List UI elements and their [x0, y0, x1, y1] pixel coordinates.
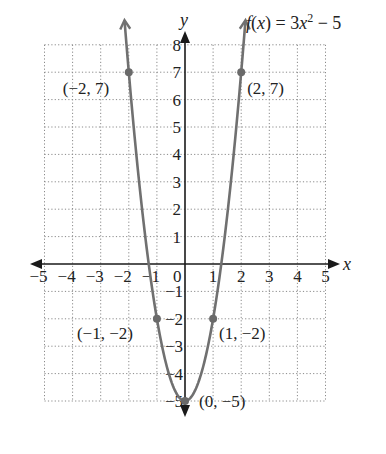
y-tick-label: 4 — [173, 145, 182, 164]
x-tick-label: 5 — [321, 267, 330, 286]
x-tick-label: 4 — [293, 267, 302, 286]
x-tick-label: 1 — [209, 267, 218, 286]
parabola-chart: x y −5−4−3−2−101234512345678−1−2−3−4−5 (… — [0, 0, 386, 454]
point-label: (−2, 7) — [63, 79, 109, 98]
y-tick-label: −3 — [165, 337, 183, 356]
y-axis-label: y — [178, 10, 188, 30]
x-tick-label: −5 — [29, 267, 47, 286]
data-point — [125, 68, 133, 76]
y-tick-label: 6 — [173, 91, 182, 110]
x-axis-right-arrow-icon — [328, 259, 340, 269]
y-tick-label: 5 — [173, 118, 182, 137]
y-tick-label: 3 — [173, 173, 182, 192]
data-point — [237, 68, 245, 76]
y-tick-label: 2 — [173, 200, 182, 219]
function-title: f(x) = 3x2 − 5 — [246, 11, 341, 34]
y-tick-label: −2 — [165, 310, 183, 329]
y-tick-label: 7 — [173, 63, 182, 82]
data-point — [153, 315, 161, 323]
y-tick-label: 8 — [173, 36, 182, 55]
x-tick-label: −3 — [86, 267, 104, 286]
data-point — [181, 397, 189, 405]
data-point — [209, 315, 217, 323]
point-label: (0, −5) — [199, 392, 245, 411]
y-tick-label: 1 — [173, 228, 182, 247]
y-tick-label: −1 — [165, 282, 183, 301]
x-tick-label: 3 — [265, 267, 274, 286]
point-label: (2, 7) — [247, 79, 284, 98]
y-tick-label: −5 — [165, 392, 183, 411]
y-axis-up-arrow-icon — [180, 31, 190, 43]
point-label: (−1, −2) — [77, 324, 133, 343]
x-tick-label: 2 — [237, 267, 246, 286]
point-label: (1, −2) — [219, 324, 265, 343]
axes: x y — [30, 10, 351, 417]
x-tick-label: −2 — [114, 267, 132, 286]
x-tick-label: −4 — [58, 267, 77, 286]
x-axis-label: x — [342, 254, 351, 274]
